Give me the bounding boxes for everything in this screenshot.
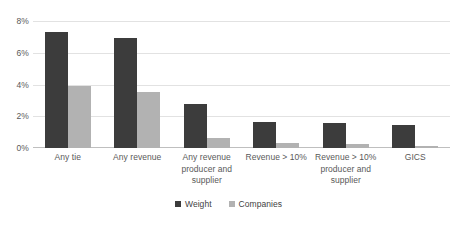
- bar-weight[interactable]: [392, 125, 415, 148]
- x-tick-label: Any tie: [33, 152, 103, 164]
- bar-companies[interactable]: [415, 146, 438, 148]
- bar-group: [33, 21, 103, 148]
- bar-chart: 0%2%4%6%8% Any tieAny revenueAny revenue…: [0, 0, 457, 229]
- legend-label: Companies: [239, 199, 282, 209]
- plot-area: [33, 21, 450, 148]
- y-tick-label: 2%: [17, 111, 30, 121]
- bar-companies[interactable]: [276, 143, 299, 148]
- y-tick-label: 8%: [17, 16, 30, 26]
- legend-item[interactable]: Companies: [229, 199, 282, 209]
- bar-group: [311, 21, 381, 148]
- legend-swatch-icon: [229, 201, 235, 207]
- y-tick-label: 4%: [17, 80, 30, 90]
- x-axis-category-labels: Any tieAny revenueAny revenueproducer an…: [33, 152, 450, 196]
- legend-label: Weight: [185, 199, 212, 209]
- bar-group: [242, 21, 312, 148]
- bar-group: [172, 21, 242, 148]
- bar-companies[interactable]: [346, 144, 369, 148]
- bar-weight[interactable]: [253, 122, 276, 148]
- bar-group: [103, 21, 173, 148]
- x-tick-label: Revenue > 10%producer andsupplier: [311, 152, 381, 187]
- bar-weight[interactable]: [184, 104, 207, 148]
- y-tick-label: 0%: [17, 143, 30, 153]
- x-tick-label: Any revenue: [103, 152, 173, 164]
- x-tick-label: GICS: [381, 152, 451, 164]
- bar-weight[interactable]: [45, 32, 68, 148]
- bar-weight[interactable]: [114, 38, 137, 148]
- legend-swatch-icon: [175, 201, 181, 207]
- bar-group: [381, 21, 451, 148]
- bar-companies[interactable]: [68, 86, 91, 148]
- y-tick-label: 6%: [17, 48, 30, 58]
- bar-weight[interactable]: [323, 123, 346, 148]
- x-tick-label: Any revenueproducer andsupplier: [172, 152, 242, 187]
- bar-companies[interactable]: [137, 92, 160, 148]
- chart-legend: WeightCompanies: [0, 199, 457, 209]
- x-tick-label: Revenue > 10%: [242, 152, 312, 164]
- bar-companies[interactable]: [207, 138, 230, 148]
- y-axis: 0%2%4%6%8%: [0, 21, 29, 148]
- legend-item[interactable]: Weight: [175, 199, 212, 209]
